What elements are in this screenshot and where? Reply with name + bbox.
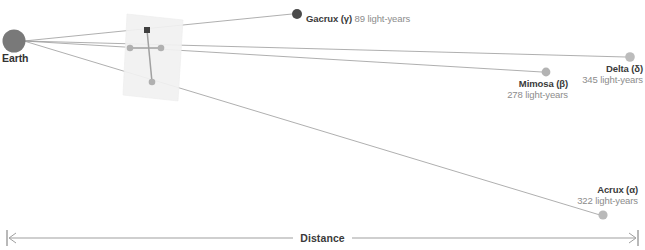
star-dot-acrux: [598, 210, 607, 219]
star-dot-delta: [625, 52, 635, 62]
star-label-acrux-distance: 322 light-years: [508, 196, 638, 207]
sightline-to-delta: [24, 41, 626, 57]
star-label-gacrux-distance: 89 light-years: [355, 13, 411, 24]
sky-plane: [123, 14, 183, 101]
earth-label: Earth: [2, 52, 28, 64]
sightline-to-mimosa: [24, 41, 542, 72]
star-dot-gacrux: [292, 9, 302, 19]
crux-star-delta: [158, 45, 165, 52]
diagram-canvas: [0, 0, 645, 250]
star-label-delta: Delta (δ) 345 light-years: [513, 64, 643, 85]
distance-axis-label: Distance: [0, 232, 645, 244]
star-label-gacrux-name: Gacrux (γ): [306, 13, 352, 24]
crux-star-mimosa: [127, 45, 134, 52]
star-distance-diagram: Earth Gacrux (γ) 89 light-years Mimosa (…: [0, 0, 645, 250]
star-label-delta-distance: 345 light-years: [513, 75, 643, 86]
star-label-acrux: Acrux (α) 322 light-years: [508, 185, 638, 206]
crux-star-acrux: [149, 79, 156, 86]
distance-axis-label-text: Distance: [293, 232, 352, 244]
crux-star-gacrux: [144, 27, 150, 33]
star-label-mimosa-distance: 278 light-years: [438, 90, 568, 101]
earth-sphere: [3, 30, 26, 53]
star-label-gacrux: Gacrux (γ) 89 light-years: [306, 8, 410, 26]
